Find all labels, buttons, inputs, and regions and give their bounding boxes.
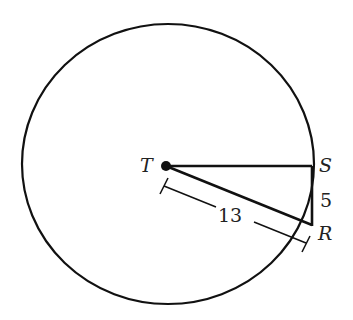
label-t: T <box>140 154 154 176</box>
label-tr-length: 13 <box>218 204 242 226</box>
label-r: R <box>317 222 332 244</box>
label-s: S <box>319 154 332 176</box>
geometry-diagram: T S 5 R 13 <box>0 0 353 320</box>
dimension-tick-right <box>302 236 310 252</box>
center-point-t <box>161 161 171 171</box>
dimension-line-left-segment <box>164 186 216 207</box>
label-sr-length: 5 <box>320 189 332 211</box>
dimension-tick-left <box>160 178 168 194</box>
